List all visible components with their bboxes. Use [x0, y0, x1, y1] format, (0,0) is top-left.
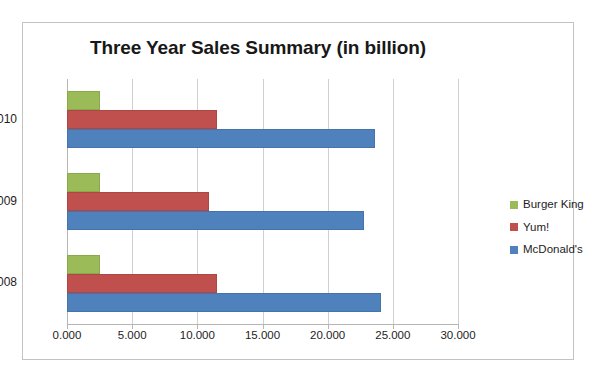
legend-item-burger-king[interactable]: Burger King: [510, 199, 597, 211]
bar-group-2009: [67, 161, 458, 243]
x-tick-label-20.000: 20.000: [293, 329, 363, 341]
x-tick-mark-25.000: [393, 324, 394, 329]
category-label-2008: 2008: [0, 275, 17, 289]
bar-burger-king-2008: [67, 255, 100, 274]
x-tick-mark-20.000: [328, 324, 329, 329]
bar-yum-2008: [67, 274, 217, 293]
x-tick-mark-15.000: [263, 324, 264, 329]
bar-mcdonald-s-2009: [67, 211, 364, 230]
legend-swatch-burger-king: [510, 201, 518, 209]
x-tick-label-15.000: 15.000: [228, 329, 298, 341]
legend-label-yum: Yum!: [523, 222, 549, 234]
legend-label-mcdonald-s: McDonald's: [523, 244, 583, 256]
x-tick-label-10.000: 10.000: [162, 329, 232, 341]
bar-mcdonald-s-2008: [67, 293, 381, 312]
category-label-2009: 2009: [0, 194, 17, 208]
bar-mcdonald-s-2010: [67, 129, 375, 148]
x-tick-mark-0.000: [67, 324, 68, 329]
chart-title: Three Year Sales Summary (in billion): [23, 37, 493, 59]
x-tick-label-5.000: 5.000: [97, 329, 167, 341]
x-tick-mark-10.000: [197, 324, 198, 329]
x-tick-label-25.000: 25.000: [358, 329, 428, 341]
legend-swatch-mcdonald-s: [510, 246, 518, 254]
bar-burger-king-2010: [67, 91, 100, 110]
legend-swatch-yum: [510, 223, 518, 231]
x-tick-mark-30.000: [458, 324, 459, 329]
x-tick-mark-5.000: [132, 324, 133, 329]
chart-legend: Burger KingYum!McDonald's: [510, 199, 597, 267]
x-tick-label-0.000: 0.000: [32, 329, 102, 341]
category-axis-labels: 201020092008: [0, 79, 17, 324]
plot-area: [67, 79, 458, 324]
gridline-30.000: [458, 79, 459, 324]
legend-item-mcdonald-s[interactable]: McDonald's: [510, 244, 597, 256]
legend-item-yum[interactable]: Yum!: [510, 222, 597, 234]
category-label-2010: 2010: [0, 112, 17, 126]
bar-yum-2009: [67, 192, 209, 211]
bar-burger-king-2009: [67, 173, 100, 192]
bar-group-2010: [67, 79, 458, 161]
legend-label-burger-king: Burger King: [523, 199, 584, 211]
bar-yum-2010: [67, 110, 217, 129]
x-axis-tick-labels: 0.0005.00010.00015.00020.00025.00030.000: [67, 329, 458, 349]
chart-screenshot: Three Year Sales Summary (in billion) 20…: [0, 0, 597, 379]
x-tick-label-30.000: 30.000: [423, 329, 493, 341]
chart-frame: Three Year Sales Summary (in billion) 20…: [22, 22, 574, 360]
bar-group-2008: [67, 242, 458, 324]
